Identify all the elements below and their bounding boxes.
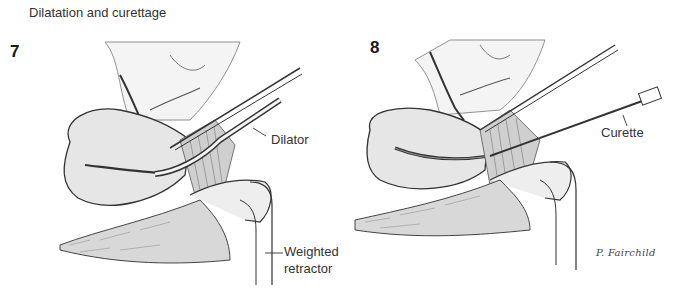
artist-signature: P. Fairchild bbox=[596, 247, 656, 258]
label-curette: Curette bbox=[601, 125, 644, 141]
label-weighted-retractor-line1: Weighted bbox=[284, 244, 339, 260]
label-weighted-retractor-line2: retractor bbox=[284, 261, 332, 277]
label-dilator: Dilator bbox=[271, 132, 309, 148]
